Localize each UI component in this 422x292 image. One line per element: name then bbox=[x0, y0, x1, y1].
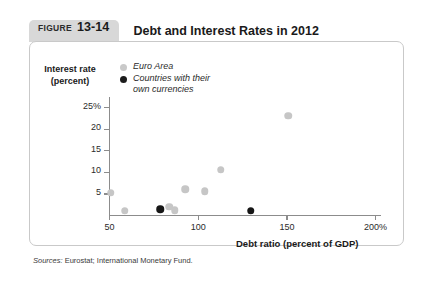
legend-label-own-currencies: Countries with their own currencies bbox=[133, 73, 210, 95]
figure-title: Debt and Interest Rates in 2012 bbox=[133, 24, 318, 38]
data-point bbox=[182, 185, 190, 193]
chart-legend: Euro Area Countries with their own curre… bbox=[120, 61, 210, 96]
y-tick-label-10: 10 bbox=[91, 165, 101, 175]
y-tick-15: 15 bbox=[104, 150, 109, 151]
y-axis-line bbox=[109, 97, 110, 215]
y-tick-label-20: 20 bbox=[91, 122, 101, 132]
data-point bbox=[121, 207, 129, 215]
source-prefix: Sources: bbox=[33, 256, 63, 265]
figure-header: FIGURE 13-14 Debt and Interest Rates in … bbox=[29, 20, 319, 42]
data-point bbox=[157, 206, 165, 214]
legend-label-euro-area: Euro Area bbox=[133, 61, 173, 72]
x-tick-label-100: 100 bbox=[191, 222, 206, 232]
x-axis-title: Debt ratio (percent of GDP) bbox=[236, 238, 358, 249]
y-tick-25: 25% bbox=[104, 107, 109, 108]
figure-container: FIGURE 13-14 Debt and Interest Rates in … bbox=[0, 0, 422, 292]
x-tick-50: 50 bbox=[109, 215, 110, 220]
figure-label-word: FIGURE bbox=[38, 23, 72, 33]
y-tick-10: 10 bbox=[104, 172, 109, 173]
x-tick-150: 150 bbox=[286, 215, 287, 220]
source-text: Eurostat; International Monetary Fund. bbox=[63, 256, 193, 265]
y-tick-label-15: 15 bbox=[91, 144, 101, 154]
data-point bbox=[171, 206, 179, 214]
source-note: Sources: Eurostat; International Monetar… bbox=[33, 256, 193, 265]
legend-item-euro-area: Euro Area bbox=[120, 61, 210, 72]
legend-marker-icon-own-currencies bbox=[120, 76, 127, 83]
x-tick-label-200: 200% bbox=[364, 222, 387, 232]
figure-number-badge: FIGURE 13-14 bbox=[29, 20, 119, 42]
data-point bbox=[201, 187, 209, 195]
x-tick-200: 200% bbox=[375, 215, 376, 220]
data-point bbox=[217, 166, 225, 174]
figure-number: 13-14 bbox=[77, 20, 109, 34]
y-axis-title: Interest rate (percent) bbox=[33, 64, 107, 87]
y-tick-20: 20 bbox=[104, 129, 109, 130]
legend-item-own-currencies: Countries with their own currencies bbox=[120, 73, 210, 95]
data-point bbox=[107, 189, 115, 197]
x-tick-label-150: 150 bbox=[279, 222, 294, 232]
x-tick-label-50: 50 bbox=[105, 222, 115, 232]
x-axis-line bbox=[109, 215, 381, 216]
plot-area: 25%2015105 50100150200% bbox=[109, 100, 384, 215]
y-tick-label-25: 25% bbox=[83, 101, 101, 111]
data-point bbox=[284, 112, 292, 120]
x-tick-100: 100 bbox=[198, 215, 199, 220]
y-tick-label-5: 5 bbox=[96, 187, 101, 197]
data-point bbox=[247, 207, 255, 215]
y-axis-title-line1: Interest rate (percent) bbox=[44, 64, 96, 86]
legend-marker-icon-euro-area bbox=[120, 64, 127, 71]
